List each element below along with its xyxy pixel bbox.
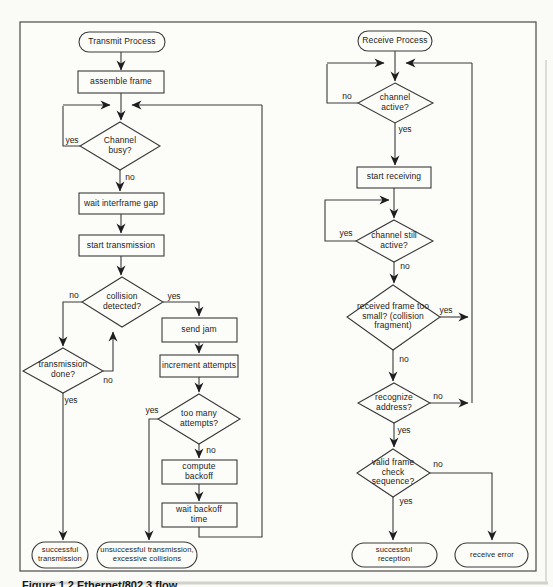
receive-process-terminator: [358, 31, 432, 51]
send-jam-box: [162, 318, 237, 342]
wait-interframe-gap-box: [79, 193, 164, 214]
wait-backoff-time-box: [162, 503, 237, 527]
scanned-page: { "caption": { "text": "Figure 1.2 Ether…: [0, 0, 553, 587]
successful-reception-terminator: [352, 543, 437, 567]
receive-error-terminator: [455, 543, 528, 567]
start-transmission-box: [79, 235, 164, 256]
successful-transmission-terminator: [32, 542, 88, 568]
flowchart-canvas: [0, 0, 553, 587]
assemble-frame-box: [78, 71, 164, 93]
start-receiving-box: [357, 167, 431, 188]
compute-backoff-box: [162, 460, 237, 484]
figure-caption: Figure 1.2 Ethernet/802.3 flow: [22, 579, 177, 587]
transmit-process-terminator: [79, 32, 165, 52]
increment-attempts-box: [160, 355, 238, 377]
unsuccessful-transmission-terminator: [97, 542, 197, 568]
